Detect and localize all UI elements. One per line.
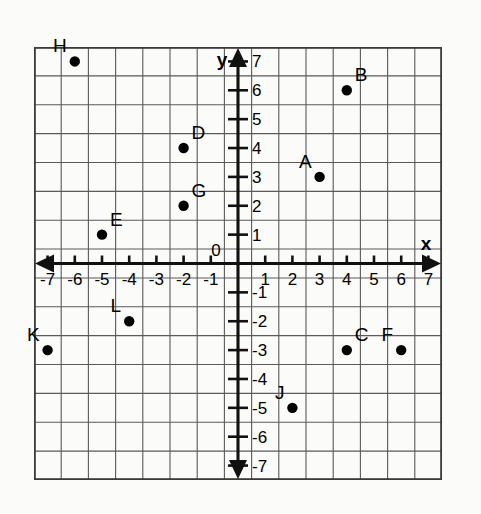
x-tick-label: 4 xyxy=(342,270,351,289)
y-tick-label: -6 xyxy=(252,428,267,447)
plotted-point: F xyxy=(382,324,407,355)
point-label: G xyxy=(192,180,207,201)
point-label: B xyxy=(355,64,368,85)
point-label: D xyxy=(192,122,206,143)
graph-scene: -7-6-5-4-3-2-11234567-7-6-5-4-3-2-112345… xyxy=(0,0,481,514)
point-marker xyxy=(342,85,352,95)
y-axis-arrow-down xyxy=(229,460,247,479)
x-tick-label: 5 xyxy=(369,270,378,289)
y-tick-label: 6 xyxy=(252,81,261,100)
point-label: L xyxy=(111,295,122,316)
plotted-point: A xyxy=(299,151,325,182)
y-axis-arrow-up xyxy=(229,48,247,67)
point-marker xyxy=(396,345,406,355)
y-tick-label: -2 xyxy=(252,312,267,331)
x-tick-label: 6 xyxy=(396,270,405,289)
point-marker xyxy=(42,345,52,355)
y-tick-label: -1 xyxy=(252,283,267,302)
point-marker xyxy=(287,403,297,413)
x-tick-label: -5 xyxy=(94,270,109,289)
point-label: F xyxy=(382,324,394,345)
point-label: H xyxy=(53,35,67,56)
y-axis-label: y xyxy=(217,49,228,70)
coordinate-plane: -7-6-5-4-3-2-11234567-7-6-5-4-3-2-112345… xyxy=(34,47,442,480)
y-tick-label: 5 xyxy=(252,110,261,129)
plotted-point: D xyxy=(178,122,205,153)
point-label: J xyxy=(275,382,285,403)
y-tick-label: -5 xyxy=(252,399,267,418)
plotted-points: ABCDEFGHJKL xyxy=(27,35,406,413)
origin-label: 0 xyxy=(211,241,220,260)
point-label: C xyxy=(355,324,369,345)
x-tick-label: -4 xyxy=(122,270,137,289)
plotted-point: E xyxy=(97,209,123,240)
point-marker xyxy=(124,316,134,326)
point-marker xyxy=(70,56,80,66)
point-label: K xyxy=(27,324,40,345)
y-tick-label: 7 xyxy=(252,52,261,71)
y-tick-label: 1 xyxy=(252,226,261,245)
y-tick-label: 3 xyxy=(252,168,261,187)
axes xyxy=(35,48,441,479)
plotted-point: B xyxy=(342,64,368,95)
x-tick-label: 7 xyxy=(424,270,433,289)
axis-name-labels: 0xy xyxy=(211,49,431,260)
x-tick-label: -3 xyxy=(149,270,164,289)
point-marker xyxy=(314,172,324,182)
point-label: E xyxy=(110,209,123,230)
y-tick-label: 2 xyxy=(252,197,261,216)
point-label: A xyxy=(299,151,312,172)
x-tick-label: 2 xyxy=(288,270,297,289)
x-tick-label: -1 xyxy=(203,270,218,289)
x-axis-label: x xyxy=(421,233,432,254)
plotted-point: H xyxy=(53,35,80,66)
point-marker xyxy=(178,201,188,211)
y-tick-label: -3 xyxy=(252,341,267,360)
x-tick-label: -7 xyxy=(40,270,55,289)
y-tick-label: 4 xyxy=(252,139,261,158)
coordinate-plane-svg: -7-6-5-4-3-2-11234567-7-6-5-4-3-2-112345… xyxy=(34,47,442,480)
x-tick-label: -6 xyxy=(67,270,82,289)
x-tick-label: 3 xyxy=(315,270,324,289)
y-tick-label: -4 xyxy=(252,370,267,389)
point-marker xyxy=(342,345,352,355)
point-marker xyxy=(178,143,188,153)
plotted-point: G xyxy=(178,180,206,211)
plotted-point: C xyxy=(342,324,369,355)
plotted-point: K xyxy=(27,324,53,355)
y-tick-label: -7 xyxy=(252,457,267,476)
x-tick-label: -2 xyxy=(176,270,191,289)
point-marker xyxy=(97,229,107,239)
plotted-point: L xyxy=(111,295,135,326)
